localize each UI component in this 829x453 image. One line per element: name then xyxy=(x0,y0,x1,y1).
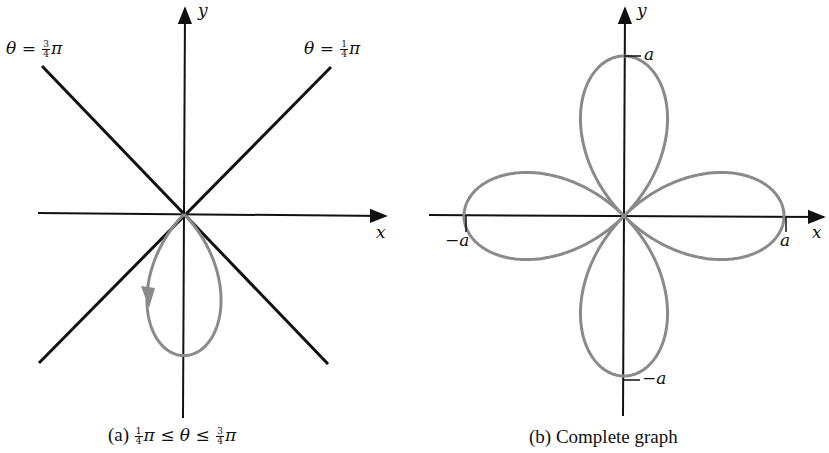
ray-label-three-quarter-pi: θ = 34π xyxy=(6,38,62,59)
panel-b-caption: (b) Complete graph xyxy=(529,426,678,448)
fraction: 14 xyxy=(340,40,348,59)
caption-inequality: 14π ≤ θ ≤ 34π xyxy=(134,425,236,445)
panel-b-y-axis xyxy=(623,8,625,416)
denominator: 4 xyxy=(135,437,143,446)
le-symbol: ≤ xyxy=(160,425,174,445)
panel-a xyxy=(38,8,386,418)
panel-a-y-label: y xyxy=(198,0,208,20)
denominator: 4 xyxy=(340,50,348,59)
denominator: 4 xyxy=(216,437,224,446)
theta-symbol: θ xyxy=(6,38,16,58)
tick-label-pos-y: a xyxy=(644,44,654,64)
fraction: 14 xyxy=(135,427,143,446)
tick-label-neg-y: −a xyxy=(642,368,666,388)
equals-sign: = xyxy=(320,38,334,58)
theta-symbol: θ xyxy=(180,425,190,445)
figure-canvas xyxy=(0,0,829,453)
pi-symbol: π xyxy=(349,38,360,58)
theta-symbol: θ xyxy=(304,38,314,58)
panel-b-x-label: x xyxy=(812,222,822,242)
le-symbol: ≤ xyxy=(195,425,209,445)
tick-label-neg-x: −a xyxy=(445,230,469,250)
denominator: 4 xyxy=(42,50,50,59)
pi-symbol: π xyxy=(51,38,62,58)
panel-b xyxy=(429,8,824,416)
fraction: 34 xyxy=(42,40,50,59)
panel-a-x-axis xyxy=(38,213,386,216)
direction-arrow-icon xyxy=(141,286,155,308)
caption-prefix: (a) xyxy=(108,424,129,445)
equals-sign: = xyxy=(22,38,36,58)
fraction: 34 xyxy=(216,427,224,446)
tick-label-pos-x: a xyxy=(780,230,790,250)
pi-symbol: π xyxy=(225,425,236,445)
panel-a-x-label: x xyxy=(376,222,386,242)
pi-symbol: π xyxy=(144,425,155,445)
panel-a-caption: (a) 14π ≤ θ ≤ 34π xyxy=(108,424,236,446)
panel-b-y-label: y xyxy=(637,0,647,20)
ray-label-quarter-pi: θ = 14π xyxy=(304,38,360,59)
